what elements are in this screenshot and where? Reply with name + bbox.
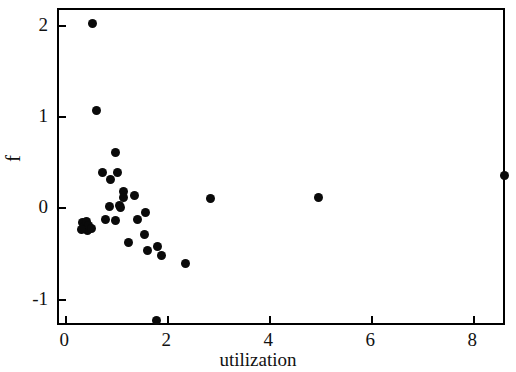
data-point — [133, 215, 142, 224]
data-point — [152, 316, 161, 325]
y-tick — [59, 207, 66, 209]
x-tick — [269, 316, 271, 323]
data-point — [101, 215, 110, 224]
data-point — [124, 238, 133, 247]
x-tick — [65, 316, 67, 323]
data-point — [105, 202, 114, 211]
data-point — [106, 175, 115, 184]
data-point — [314, 193, 323, 202]
data-point — [181, 259, 190, 268]
y-tick — [59, 25, 66, 27]
data-point — [98, 168, 107, 177]
data-point — [206, 194, 215, 203]
x-tick-label: 0 — [59, 330, 69, 349]
plot-area-frame — [57, 8, 505, 325]
data-point — [111, 216, 120, 225]
x-tick — [167, 316, 169, 323]
y-tick-label: 1 — [39, 105, 49, 124]
data-point — [88, 19, 97, 28]
y-tick — [59, 116, 66, 118]
x-tick — [371, 316, 373, 323]
data-point — [130, 191, 139, 200]
x-tick — [473, 316, 475, 323]
y-tick-label: -1 — [32, 288, 48, 307]
x-tick-label: 6 — [366, 330, 376, 349]
y-tick — [59, 299, 66, 301]
x-tick-label: 2 — [161, 330, 171, 349]
data-point — [141, 208, 150, 217]
y-tick-label: 0 — [39, 197, 49, 216]
y-tick-label: 2 — [39, 14, 49, 33]
x-tick-label: 8 — [468, 330, 478, 349]
data-point — [153, 242, 162, 251]
y-axis-title: f — [3, 155, 24, 162]
x-axis-title: utilization — [0, 350, 516, 369]
data-point — [77, 225, 86, 234]
data-point — [143, 246, 152, 255]
data-point — [500, 171, 509, 180]
data-point — [111, 148, 120, 157]
data-point — [87, 224, 96, 233]
data-point — [113, 168, 122, 177]
scatter-plot-figure: 02468 -1012 utilization f — [0, 0, 516, 372]
data-points-layer — [59, 10, 503, 323]
data-point — [157, 251, 166, 260]
x-tick-label: 4 — [263, 330, 273, 349]
data-point — [116, 203, 125, 212]
data-point — [140, 230, 149, 239]
data-point — [92, 106, 101, 115]
